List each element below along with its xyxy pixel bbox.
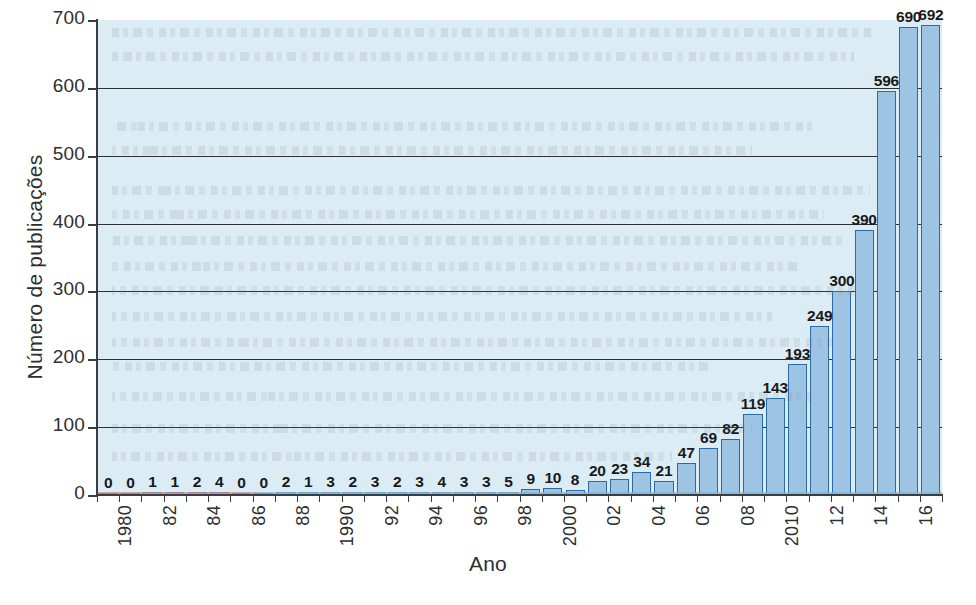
x-tick-label-88: 88 [293,505,314,526]
x-tick-mark-36 [898,494,899,502]
x-tick-mark-35 [875,494,876,502]
gridline-600 [97,88,942,89]
x-tick-mark-22 [586,494,587,502]
y-tick-label-200: 200 [30,346,85,368]
x-tick-mark-5 [208,494,209,502]
x-tick-label-2000: 2000 [560,505,581,546]
y-tick-label-300: 300 [30,278,85,300]
y-tick-label-100: 100 [30,414,85,436]
gridline-300 [97,291,942,292]
bar-value-label-2015: 596 [855,72,917,90]
bar-2016 [899,27,918,495]
x-tick-mark-16 [453,494,454,502]
y-tick-label-600: 600 [30,75,85,97]
x-tick-label-14: 14 [871,505,892,526]
x-tick-mark-2 [141,494,142,502]
y-tick-mark-300 [88,291,97,293]
x-tick-mark-3 [164,494,165,502]
y-tick-mark-100 [88,427,97,429]
bar-value-label-2017: 692 [900,6,962,24]
x-tick-mark-27 [697,494,698,502]
bar-value-label-2009: 119 [722,395,784,413]
x-tick-mark-25 [653,494,654,502]
x-tick-mark-12 [364,494,365,502]
x-tick-label-06: 06 [693,505,714,526]
x-tick-mark-13 [386,494,387,502]
x-tick-mark-7 [253,494,254,502]
y-tick-mark-600 [88,88,97,90]
gridline-400 [97,224,942,225]
x-tick-mark-10 [319,494,320,502]
x-tick-mark-17 [475,494,476,502]
plot-inner [97,20,942,495]
x-tick-mark-26 [675,494,676,502]
x-tick-mark-9 [297,494,298,502]
x-tick-label-98: 98 [515,505,536,526]
x-tick-mark-8 [275,494,276,502]
x-tick-mark-21 [564,494,565,502]
plot-area [97,20,942,495]
x-tick-mark-19 [520,494,521,502]
x-tick-mark-34 [853,494,854,502]
bar-2015 [877,91,896,495]
x-tick-label-2010: 2010 [782,505,803,546]
x-tick-mark-30 [764,494,765,502]
x-tick-mark-14 [408,494,409,502]
x-tick-label-08: 08 [738,505,759,526]
x-tick-label-04: 04 [649,505,670,526]
x-tick-label-92: 92 [382,505,403,526]
x-tick-label-94: 94 [426,505,447,526]
y-tick-label-700: 700 [30,7,85,29]
bar-2014 [855,230,874,495]
x-axis-title: Ano [0,552,976,576]
y-tick-mark-200 [88,359,97,361]
publications-bar-chart-figure: Número de publicações Ano 01002003004005… [0,0,976,605]
x-tick-label-12: 12 [827,505,848,526]
x-tick-mark-4 [186,494,187,502]
x-tick-mark-28 [720,494,721,502]
x-tick-mark-24 [631,494,632,502]
x-tick-mark-1 [119,494,120,502]
bar-2017 [921,25,940,495]
x-tick-label-1980: 1980 [115,505,136,546]
x-tick-mark-20 [542,494,543,502]
x-tick-mark-11 [342,494,343,502]
x-tick-mark-32 [809,494,810,502]
bar-value-label-2008: 82 [700,420,762,438]
x-tick-mark-29 [742,494,743,502]
y-tick-label-500: 500 [30,143,85,165]
x-tick-mark-31 [786,494,787,502]
bar-value-label-2005: 21 [633,462,695,480]
bar-value-label-2013: 300 [811,272,873,290]
x-tick-mark-15 [431,494,432,502]
x-tick-label-1990: 1990 [337,505,358,546]
x-tick-mark-33 [831,494,832,502]
x-tick-mark-0 [97,494,98,502]
x-tick-label-82: 82 [160,505,181,526]
bar-value-label-2014: 390 [833,211,895,229]
x-tick-label-02: 02 [604,505,625,526]
y-tick-mark-700 [88,20,97,22]
y-tick-label-400: 400 [30,211,85,233]
x-tick-label-96: 96 [471,505,492,526]
bar-value-label-2012: 249 [789,307,851,325]
x-tick-mark-23 [608,494,609,502]
y-tick-mark-0 [88,495,97,497]
bar-2008 [721,439,740,495]
x-tick-mark-18 [497,494,498,502]
y-tick-mark-500 [88,156,97,158]
gridline-500 [97,156,942,157]
bar-value-label-2010: 143 [744,379,806,397]
y-tick-mark-400 [88,224,97,226]
x-tick-label-84: 84 [204,505,225,526]
bar-value-label-2011: 193 [766,345,828,363]
x-tick-mark-6 [230,494,231,502]
y-axis-line [96,19,98,496]
x-tick-mark-38 [942,494,943,502]
x-tick-label-86: 86 [249,505,270,526]
x-tick-mark-37 [920,494,921,502]
x-tick-label-16: 16 [916,505,937,526]
